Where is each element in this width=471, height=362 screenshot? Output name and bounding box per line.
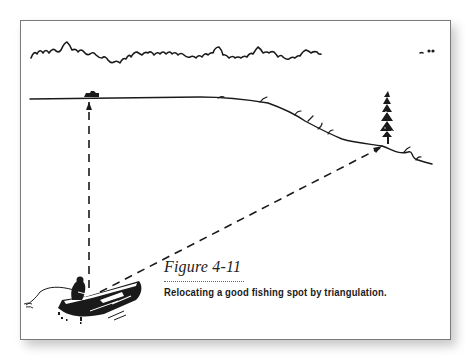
arrowhead-icon [86, 102, 92, 110]
pine-tree-icon [380, 91, 394, 144]
shoreline [30, 97, 382, 146]
cabin-icon [84, 91, 99, 97]
triangulation-illustration [0, 0, 471, 362]
figure-caption: Relocating a good fishing spot by triang… [164, 286, 387, 298]
boat-with-angler-icon [24, 277, 141, 325]
caption-divider [164, 281, 244, 282]
figure-label: Figure 4-11 [164, 258, 241, 276]
treeline-icon [31, 42, 434, 63]
